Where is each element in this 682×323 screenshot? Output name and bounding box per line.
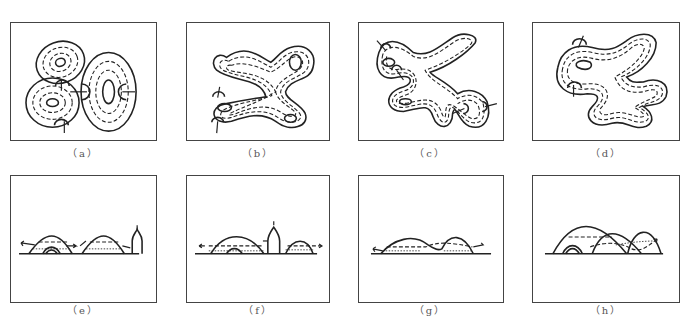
panel-f <box>186 175 330 303</box>
panel-label-f: （f） <box>228 302 288 317</box>
figure-caption <box>260 316 430 323</box>
panel-d <box>532 22 680 141</box>
diagram-h-section <box>533 176 679 302</box>
panel-label-c: （c） <box>400 145 460 160</box>
panel-c <box>358 22 504 141</box>
panel-g <box>358 175 504 303</box>
diagram-b-merged-body <box>187 23 329 140</box>
panel-label-h: （h） <box>576 302 636 317</box>
panel-label-g: （g） <box>400 302 460 317</box>
panel-b <box>186 22 330 141</box>
panel-label-b: （b） <box>228 145 288 160</box>
diagram-f-section <box>187 176 329 302</box>
panel-label-e: （e） <box>53 302 113 317</box>
panel-label-d: （d） <box>576 145 636 160</box>
panel-label-a: （a） <box>53 145 113 160</box>
panel-e <box>10 175 157 303</box>
diagram-c-meandering-body <box>359 23 503 140</box>
diagram-g-section <box>359 176 503 302</box>
panel-h <box>532 175 680 303</box>
diagram-d-lobate-body <box>533 23 679 140</box>
diagram-e-section <box>11 176 156 302</box>
panel-a <box>10 22 157 141</box>
diagram-a-concentric-ellipses <box>11 23 156 140</box>
